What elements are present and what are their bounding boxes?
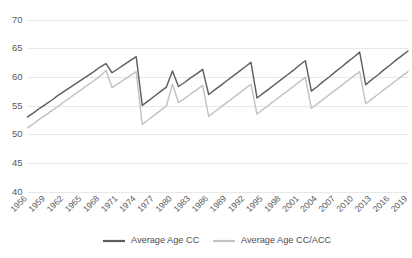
y-axis-tick-label: 45 [12,157,23,168]
series-line-average-age-cc-acc [28,70,409,127]
x-axis-tick-label: 1965 [63,193,84,214]
y-axis-tick-label: 55 [12,100,23,111]
x-axis-tick-label: 1977 [135,193,156,214]
x-axis-tick-label: 1971 [99,193,120,214]
x-axis-tick-label: 2004 [298,193,319,214]
chart-container: 40455055606570 1956195919621965196819711… [0,0,412,258]
x-axis-tick-label: 1992 [226,193,247,214]
x-axis-tick-label: 1974 [117,193,138,214]
x-axis-tick-labels: 1956195919621965196819711974197719801983… [8,193,409,214]
series-line-average-age-cc [28,51,409,117]
x-axis-tick-label: 2001 [280,193,301,214]
y-axis-tick-label: 70 [12,14,23,25]
x-axis-tick-label: 1998 [262,193,283,214]
series-lines [28,51,409,128]
x-axis-tick-label: 1968 [81,193,102,214]
y-axis-tick-label: 60 [12,71,23,82]
y-axis-tick-labels: 40455055606570 [12,14,23,197]
legend-label: Average Age CC [131,235,200,245]
line-chart: 40455055606570 1956195919621965196819711… [0,0,412,258]
x-axis-tick-label: 1995 [244,193,265,214]
x-axis-tick-label: 1962 [45,193,66,214]
y-axis-tick-label: 65 [12,42,23,53]
x-axis-tick-label: 2010 [334,193,355,214]
x-axis-tick-label: 1980 [153,193,174,214]
gridlines [28,20,409,192]
x-axis-tick-label: 1959 [26,193,47,214]
x-axis-tick-label: 1986 [190,193,211,214]
x-axis-tick-label: 1983 [171,193,192,214]
chart-legend: Average Age CCAverage Age CC/ACC [103,235,332,245]
x-axis-tick-label: 2016 [371,193,392,214]
x-axis-tick-label: 2019 [389,193,410,214]
x-axis-tick-label: 2013 [353,193,374,214]
x-axis-tick-label: 1989 [208,193,229,214]
y-axis-tick-label: 50 [12,128,23,139]
x-axis-tick-label: 2007 [316,193,337,214]
legend-label: Average Age CC/ACC [241,235,332,245]
